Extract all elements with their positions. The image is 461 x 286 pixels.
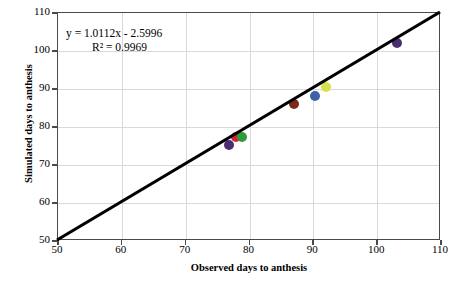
scatter-chart-figure: Simulated days to anthesis 5060708090100… <box>0 0 461 286</box>
gridline-horizontal <box>58 165 439 166</box>
gridline-vertical <box>186 13 187 239</box>
y-tick-label: 90 <box>16 82 50 93</box>
data-point <box>289 99 299 109</box>
x-tick-label: 110 <box>420 244 460 255</box>
y-tick-label: 110 <box>16 6 50 17</box>
x-tick-label: 90 <box>292 244 332 255</box>
y-tick-mark <box>52 126 57 128</box>
gridline-vertical <box>377 13 378 239</box>
y-tick-mark <box>52 88 57 90</box>
y-tick-mark <box>52 50 57 52</box>
y-tick-label: 80 <box>16 120 50 131</box>
x-tick-label: 100 <box>356 244 396 255</box>
regression-equation: y = 1.0112x - 2.5996 <box>66 27 162 39</box>
r-squared-value: R² = 0.9969 <box>66 40 162 54</box>
data-point <box>321 82 331 92</box>
gridline-vertical <box>250 13 251 239</box>
y-tick-mark <box>52 164 57 166</box>
gridline-horizontal <box>58 89 439 90</box>
gridline-vertical <box>313 13 314 239</box>
data-point <box>237 132 247 142</box>
x-axis-title: Observed days to anthesis <box>57 262 441 273</box>
gridline-horizontal <box>58 203 439 204</box>
x-tick-label: 50 <box>37 244 77 255</box>
y-tick-label: 70 <box>16 158 50 169</box>
gridline-horizontal <box>58 127 439 128</box>
regression-annotation: y = 1.0112x - 2.5996 R² = 0.9969 <box>66 26 162 55</box>
y-tick-mark <box>52 12 57 14</box>
y-tick-label: 100 <box>16 44 50 55</box>
x-tick-label: 70 <box>165 244 205 255</box>
data-point <box>310 91 320 101</box>
data-point <box>392 38 402 48</box>
x-tick-label: 60 <box>101 244 141 255</box>
x-tick-label: 80 <box>229 244 269 255</box>
y-tick-mark <box>52 202 57 204</box>
y-tick-label: 60 <box>16 196 50 207</box>
